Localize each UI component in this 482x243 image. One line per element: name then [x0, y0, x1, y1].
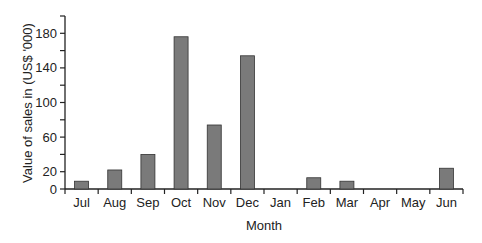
bars: [75, 37, 454, 189]
bar-chart: Value of sales in (US$ '000) JulAugSepOc…: [0, 0, 482, 243]
x-tick-label: Mar: [336, 195, 359, 210]
bar-oct: [174, 37, 188, 189]
x-tick-label: Dec: [236, 195, 260, 210]
x-axis-label: Month: [246, 218, 282, 233]
y-tick-label: 180: [35, 26, 57, 41]
bar-jun: [439, 168, 453, 189]
y-tick-labels: 02060100140180: [35, 26, 57, 197]
y-tick-label: 0: [50, 182, 57, 197]
svg-text:Value of sales in (US$ '000): Value of sales in (US$ '000): [20, 23, 35, 183]
y-axis-label: Value of sales in (US$ '000): [20, 23, 35, 183]
x-tick-label: Feb: [303, 195, 325, 210]
axes: [60, 16, 463, 194]
y-tick-label: 140: [35, 60, 57, 75]
x-tick-labels: JulAugSepOctNovDecJanFebMarAprMayJun: [73, 195, 457, 210]
y-tick-label: 20: [43, 164, 57, 179]
bar-feb: [307, 178, 321, 189]
x-tick-label: Oct: [171, 195, 192, 210]
bar-nov: [207, 125, 221, 189]
bar-sep: [141, 154, 155, 189]
bar-dec: [240, 56, 254, 189]
x-tick-label: May: [401, 195, 426, 210]
y-tick-label: 60: [43, 130, 57, 145]
x-tick-label: Aug: [103, 195, 126, 210]
y-tick-label: 100: [35, 95, 57, 110]
x-tick-label: Jun: [436, 195, 457, 210]
bar-mar: [340, 181, 354, 189]
chart-canvas: Value of sales in (US$ '000) JulAugSepOc…: [0, 0, 482, 243]
x-tick-label: Nov: [203, 195, 227, 210]
x-tick-label: Jan: [270, 195, 291, 210]
x-tick-label: Sep: [136, 195, 159, 210]
bar-jul: [75, 181, 89, 189]
x-tick-label: Apr: [370, 195, 391, 210]
x-tick-label: Jul: [73, 195, 90, 210]
bar-aug: [108, 170, 122, 189]
